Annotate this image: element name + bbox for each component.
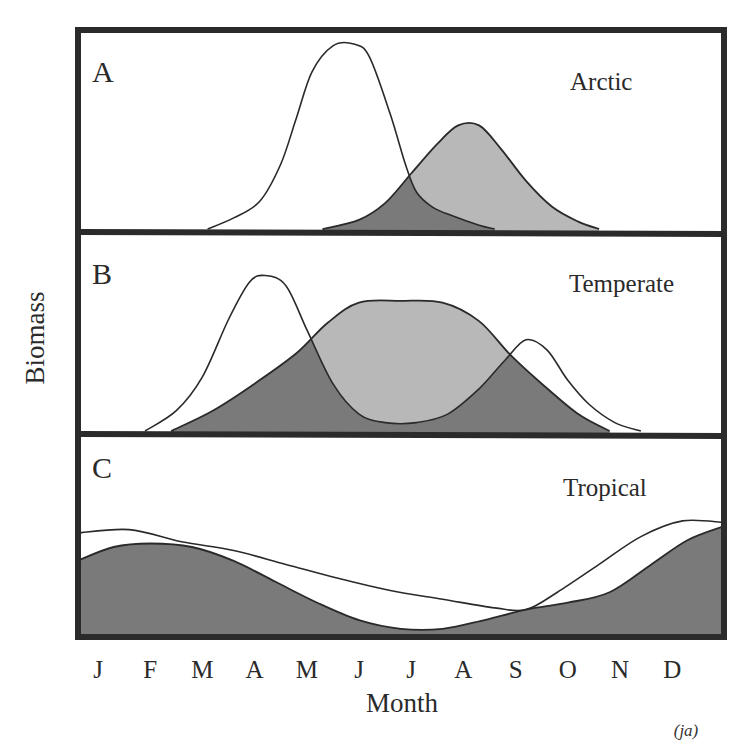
x-tick-label-8: S [509, 656, 523, 683]
panel-name-tropical: Tropical [563, 474, 647, 501]
x-tick-label-2: M [191, 656, 213, 683]
panel-name-temperate: Temperate [569, 270, 674, 297]
author-initials: (ja) [674, 721, 699, 740]
panel-tropical [77, 520, 724, 638]
x-tick-label-11: D [663, 656, 681, 683]
x-tick-label-0: J [93, 656, 103, 683]
panel-letter-b: B [92, 257, 112, 290]
x-tick-label-3: A [246, 656, 264, 683]
panel-letter-a: A [92, 55, 114, 88]
x-tick-label-5: J [354, 656, 364, 683]
x-tick-label-1: F [143, 656, 157, 683]
panel-temperate [145, 275, 641, 435]
panel-divider-ab [78, 232, 724, 234]
x-axis-title: Month [366, 688, 439, 718]
x-tick-label-4: M [296, 656, 318, 683]
x-tick-label-6: J [406, 656, 416, 683]
x-tick-label-9: O [559, 656, 577, 683]
x-tick-labels: JFMAMJJASOND [93, 656, 681, 683]
x-tick-label-10: N [611, 656, 629, 683]
y-axis-title: Biomass [20, 291, 50, 384]
biomass-chart: A Arctic B Temperate C Tropical JFMAMJJA… [0, 0, 746, 753]
panel-letter-c: C [92, 451, 112, 484]
panel-arctic [208, 42, 599, 233]
x-tick-label-7: A [454, 656, 472, 683]
panel-divider-bc [78, 434, 724, 436]
panel-name-arctic: Arctic [570, 68, 632, 95]
